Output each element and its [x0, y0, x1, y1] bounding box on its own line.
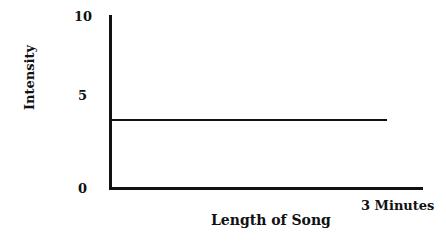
y-tick-5: 5: [78, 88, 87, 103]
y-axis-label: Intensity: [22, 45, 37, 110]
y-tick-0: 0: [78, 181, 87, 196]
x-axis-label: Length of Song: [211, 212, 331, 228]
x-tick-end: 3 Minutes: [361, 198, 434, 213]
x-axis: [109, 187, 423, 190]
data-line: [110, 119, 387, 121]
y-axis: [109, 15, 112, 190]
y-tick-10: 10: [74, 9, 92, 24]
